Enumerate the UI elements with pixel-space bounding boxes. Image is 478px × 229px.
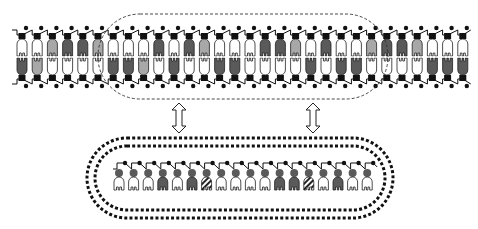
lower-side-chain — [123, 58, 133, 75]
lower-side-chain — [443, 58, 453, 75]
double-strand-assembly — [12, 26, 471, 88]
polymer-diagram — [0, 0, 478, 229]
ring-unit — [362, 161, 375, 190]
ring-unit — [260, 161, 273, 190]
lower-side-chain — [108, 58, 118, 75]
lower-side-chain — [397, 58, 407, 75]
ring-unit — [304, 161, 317, 190]
lower-side-chain — [321, 58, 331, 75]
ring-unit — [333, 161, 346, 190]
upper-side-chain — [336, 39, 346, 56]
lower-side-chain — [260, 58, 270, 75]
upper-side-chain — [32, 39, 42, 56]
ring-unit — [216, 161, 229, 190]
lower-side-chain — [291, 58, 301, 75]
lower-side-chain — [336, 58, 346, 75]
exchange-arrows — [172, 103, 320, 133]
ring-unit — [318, 161, 331, 190]
lower-side-chain — [215, 58, 225, 75]
ring-unit — [348, 161, 361, 190]
lower-side-chain — [275, 58, 285, 75]
lower-side-chain — [351, 58, 361, 75]
ring-unit — [143, 161, 156, 190]
lower-side-chain — [306, 58, 316, 75]
ring-unit — [289, 161, 302, 190]
lower-side-chain — [427, 58, 437, 75]
upper-side-chain — [184, 39, 194, 56]
double-arrow-icon — [172, 103, 186, 133]
upper-side-chain — [351, 39, 361, 56]
upper-side-chain — [139, 39, 149, 56]
ring-unit — [245, 161, 258, 190]
lower-side-chain — [17, 58, 27, 75]
ring-unit — [202, 161, 215, 190]
lower-side-chain — [169, 58, 179, 75]
upper-side-chain — [123, 39, 133, 56]
upper-side-chain — [443, 39, 453, 56]
lower-side-chain — [245, 58, 255, 75]
ring-unit — [275, 161, 288, 190]
upper-side-chain — [382, 39, 392, 56]
upper-side-chain — [199, 39, 209, 56]
lower-side-chain — [199, 58, 209, 75]
ring-unit — [114, 161, 127, 190]
lower-side-chain — [184, 58, 194, 75]
lower-side-chain — [139, 58, 149, 75]
upper-side-chain — [78, 39, 88, 56]
cyclic-single-strand — [87, 138, 393, 218]
ring-unit — [129, 161, 142, 190]
double-arrow-icon — [306, 103, 320, 133]
upper-side-chain — [245, 39, 255, 56]
ring-unit — [172, 161, 185, 190]
upper-side-chain — [17, 39, 27, 56]
ring-unit — [187, 161, 200, 190]
lower-side-chain — [78, 58, 88, 75]
upper-side-chain — [260, 39, 270, 56]
lower-side-chain — [412, 58, 422, 75]
upper-side-chain — [93, 39, 103, 56]
lower-side-chain — [230, 58, 240, 75]
upper-side-chain — [230, 39, 240, 56]
lower-side-chain — [63, 58, 73, 75]
upper-side-chain — [291, 39, 301, 56]
upper-side-chain — [412, 39, 422, 56]
upper-side-chain — [63, 39, 73, 56]
upper-side-chain — [397, 39, 407, 56]
upper-side-chain — [458, 39, 468, 56]
upper-side-chain — [169, 39, 179, 56]
lower-side-chain — [32, 58, 42, 75]
upper-side-chain — [108, 39, 118, 56]
ring-unit — [158, 161, 171, 190]
upper-side-chain — [154, 39, 164, 56]
upper-side-chain — [306, 39, 316, 56]
lower-side-chain — [154, 58, 164, 75]
upper-side-chain — [275, 39, 285, 56]
lower-side-chain — [458, 58, 468, 75]
lower-side-chain — [47, 58, 57, 75]
upper-side-chain — [427, 39, 437, 56]
ring-unit — [231, 161, 244, 190]
upper-side-chain — [321, 39, 331, 56]
lower-side-chain — [367, 58, 377, 75]
upper-side-chain — [47, 39, 57, 56]
upper-side-chain — [215, 39, 225, 56]
upper-side-chain — [367, 39, 377, 56]
